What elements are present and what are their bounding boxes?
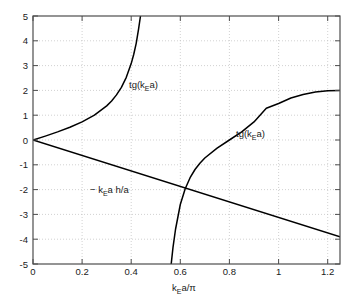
annotation-line-pre: − k <box>90 184 103 195</box>
annotation-tangent-right: tg(kEa) <box>236 128 265 141</box>
x-tick-label: 0.8 <box>223 266 236 277</box>
annotation-tangent-left: tg(kEa) <box>129 79 158 92</box>
svg-text:kEa/π: kEa/π <box>172 282 196 295</box>
svg-text:tg(kEa): tg(kEa) <box>236 128 265 141</box>
y-tick-label: -2 <box>20 184 28 195</box>
annotation-tangent-right-pre: tg(k <box>236 128 252 139</box>
svg-text:− kEa h/a: − kEa h/a <box>90 184 129 197</box>
x-tick-label: 0.6 <box>174 266 187 277</box>
annotation-line-post: a h/a <box>108 184 130 195</box>
y-tick-label: 4 <box>23 35 28 46</box>
annotation-tangent-right-post: a) <box>257 128 265 139</box>
plot-svg: 5 4 3 2 1 0 -1 -2 -3 -4 -5 0 0.2 0.4 0.6… <box>0 0 356 301</box>
annotation-tangent-left-post: a) <box>150 79 158 90</box>
x-tick-label: 1.2 <box>321 266 334 277</box>
annotation-tangent-left-pre: tg(k <box>129 79 145 90</box>
y-tick-label: 1 <box>23 110 28 121</box>
y-tick-label: -5 <box>20 259 28 270</box>
x-axis-title: kEa/π <box>172 282 196 295</box>
figure-canvas: 5 4 3 2 1 0 -1 -2 -3 -4 -5 0 0.2 0.4 0.6… <box>0 0 356 301</box>
x-tick-label: 0.2 <box>75 266 88 277</box>
y-tick-label: -3 <box>20 209 28 220</box>
y-tick-label: 0 <box>23 135 28 146</box>
x-tick-label: 0 <box>30 266 35 277</box>
y-tick-label: -1 <box>20 159 28 170</box>
annotation-line: − kEa h/a <box>90 184 129 197</box>
y-tick-label: 2 <box>23 85 28 96</box>
x-tick-label: 1 <box>276 266 281 277</box>
y-tick-label: -4 <box>20 234 28 245</box>
svg-text:tg(kEa): tg(kEa) <box>129 79 158 92</box>
x-axis-title-rest: a/π <box>181 282 196 293</box>
x-tick-label: 0.4 <box>125 266 138 277</box>
y-tick-label: 5 <box>23 11 28 22</box>
y-tick-label: 3 <box>23 60 28 71</box>
